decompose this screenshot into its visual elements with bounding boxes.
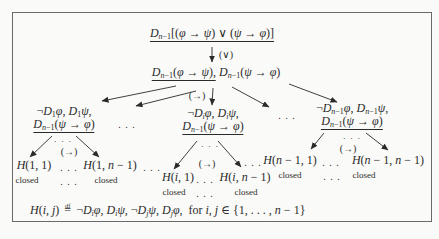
leaf-h-1-1: H(1, 1) xyxy=(17,159,52,172)
middle-leaf-ellipsis: . . . xyxy=(196,174,214,185)
h-definition-formula: H(i, j) df= ¬Diφ, Diψ, ¬Djψ, Djφ, for i,… xyxy=(30,204,305,217)
rule-label-implication-main: (→) xyxy=(189,90,206,101)
status-closed-left-2: closed xyxy=(95,175,118,185)
leaf-h-i-1: H(i, 1) xyxy=(162,171,194,184)
status-closed-right-1: closed xyxy=(279,170,302,180)
rule-label-implication-left: (→) xyxy=(61,146,78,157)
right-premise: ¬Dn−1φ, Dn−1ψ, Dn−1(ψ → φ) xyxy=(316,102,388,130)
figure-canvas: Dn−1[(φ → ψ) ∨ (ψ → φ)] (∨) Dn−1(φ → ψ),… xyxy=(0,0,439,239)
left-gap-dots: · · · xyxy=(54,136,73,146)
left-leaf-ellipsis: . . . xyxy=(60,162,78,173)
level2-rest-part: Dn−1(ψ → φ) xyxy=(219,65,280,79)
right-leaf-ellipsis: . . . xyxy=(322,157,340,168)
middle-status-ellipsis: . . . xyxy=(196,188,214,199)
leaf-h-n1-1: H(n − 1, 1) xyxy=(263,154,316,167)
level3-ellipsis-right: . . . xyxy=(278,110,296,121)
right-gap-dots: · · · xyxy=(343,133,362,143)
level2-underlined-part: Dn−1(φ → ψ), xyxy=(152,66,216,81)
status-closed-left-1: closed xyxy=(16,175,39,185)
right-premise-line2: Dn−1(ψ → φ) xyxy=(321,115,382,130)
leaf-h-n1-n1: H(n − 1, n − 1) xyxy=(352,154,424,167)
left-premise-line2: Dn−1(ψ → φ) xyxy=(33,118,94,133)
left-premise: ¬D1φ, D1ψ, Dn−1(ψ → φ) xyxy=(33,105,94,133)
leaves-ellipsis-right: . . . xyxy=(244,157,262,168)
middle-premise-line2: Dn−1(ψ → φ) xyxy=(182,120,243,135)
root-formula: Dn−1[(φ → ψ) ∨ (ψ → φ)] xyxy=(150,27,274,42)
status-closed-middle-2: closed xyxy=(235,187,258,197)
rule-label-implication-middle: (→) xyxy=(199,158,216,169)
status-closed-right-2: closed xyxy=(353,170,376,180)
leaf-h-i-n1: H(i, n − 1) xyxy=(220,171,271,184)
level2-formula: Dn−1(φ → ψ),Dn−1(ψ → φ) xyxy=(152,66,281,81)
leaves-ellipsis-left: . . . xyxy=(143,162,161,173)
leaf-h-1-n1: H(1, n − 1) xyxy=(83,159,136,172)
rule-label-disjunction: (∨) xyxy=(219,49,233,60)
root-formula-text: Dn−1[(φ → ψ) ∨ (ψ → φ)] xyxy=(150,27,274,42)
left-status-ellipsis: . . . xyxy=(60,176,78,187)
middle-gap-dots: · · · xyxy=(201,141,220,151)
middle-premise: ¬Diφ, Diψ, Dn−1(ψ → φ) xyxy=(182,107,243,135)
level3-ellipsis-left: . . . xyxy=(118,119,136,130)
status-closed-middle-1: closed xyxy=(163,187,186,197)
right-status-ellipsis: . . . xyxy=(323,171,341,182)
